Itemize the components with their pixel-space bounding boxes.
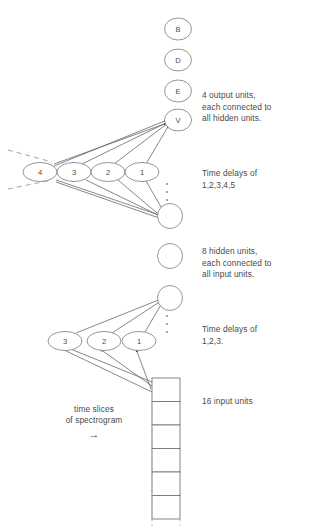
lower-connections-to-hidden bbox=[76, 299, 162, 333]
right-arrow-icon: → bbox=[42, 428, 146, 441]
annotation-input-units: 16 input units bbox=[202, 396, 253, 408]
lower-delay-unit-2[interactable]: 2 bbox=[87, 332, 121, 351]
figure-canvas: B D E V 4 3 bbox=[0, 0, 321, 529]
lower-delay-unit-label: 3 bbox=[63, 337, 67, 346]
annotation-delays-upper: Time delays of 1,2,3,4,5 bbox=[202, 168, 257, 191]
output-unit-label: B bbox=[175, 25, 180, 34]
upper-delay-unit-1[interactable]: 1 bbox=[125, 163, 159, 182]
annotation-time-slices: time slices of spectrogram → bbox=[42, 392, 146, 452]
upper-delay-unit-label: 2 bbox=[106, 168, 110, 177]
lower-delay-unit-1[interactable]: 1 bbox=[122, 332, 156, 351]
upper-delay-unit-4[interactable]: 4 bbox=[23, 163, 57, 182]
output-unit-e[interactable]: E bbox=[165, 80, 192, 102]
upper-delay-unit-3[interactable]: 3 bbox=[57, 163, 91, 182]
upper-delay-unit-label: 1 bbox=[140, 168, 144, 177]
upper-delay-unit-label: 4 bbox=[38, 168, 42, 177]
output-unit-label: E bbox=[175, 87, 180, 96]
annotation-output-units: 4 output units, each connected to all hi… bbox=[202, 90, 272, 125]
upper-delay-unit-2[interactable]: 2 bbox=[91, 163, 125, 182]
hidden-unit-lower[interactable] bbox=[158, 286, 183, 311]
output-unit-label: D bbox=[175, 56, 181, 65]
lower-delay-unit-label: 2 bbox=[102, 337, 106, 346]
hidden-unit-isolated[interactable] bbox=[158, 244, 183, 269]
lower-connections-from-input bbox=[62, 348, 152, 392]
vertical-ellipsis-upper bbox=[166, 183, 168, 201]
output-unit-b[interactable]: B bbox=[165, 18, 192, 40]
annotation-time-slices-text: time slices of spectrogram bbox=[66, 404, 123, 426]
output-unit-v[interactable]: V bbox=[165, 109, 192, 131]
output-unit-d[interactable]: D bbox=[165, 49, 192, 71]
lower-delay-unit-label: 1 bbox=[137, 337, 141, 346]
hidden-unit-group bbox=[158, 204, 183, 311]
annotation-hidden-units: 8 hidden units, each connected to all in… bbox=[202, 246, 272, 281]
annotation-delays-lower: Time delays of 1,2,3. bbox=[202, 324, 257, 347]
upper-delay-unit-group: 4 3 2 1 bbox=[23, 163, 159, 182]
lower-delay-unit-group: 3 2 1 bbox=[48, 332, 156, 351]
upper-connections-from-hidden bbox=[56, 180, 164, 219]
hidden-unit-upper[interactable] bbox=[158, 204, 183, 229]
upper-delay-unit-label: 3 bbox=[72, 168, 76, 177]
lower-delay-unit-3[interactable]: 3 bbox=[48, 332, 82, 351]
output-unit-group: B D E V bbox=[165, 18, 192, 131]
input-unit-column[interactable] bbox=[152, 378, 180, 526]
vertical-ellipsis-lower bbox=[166, 315, 168, 333]
